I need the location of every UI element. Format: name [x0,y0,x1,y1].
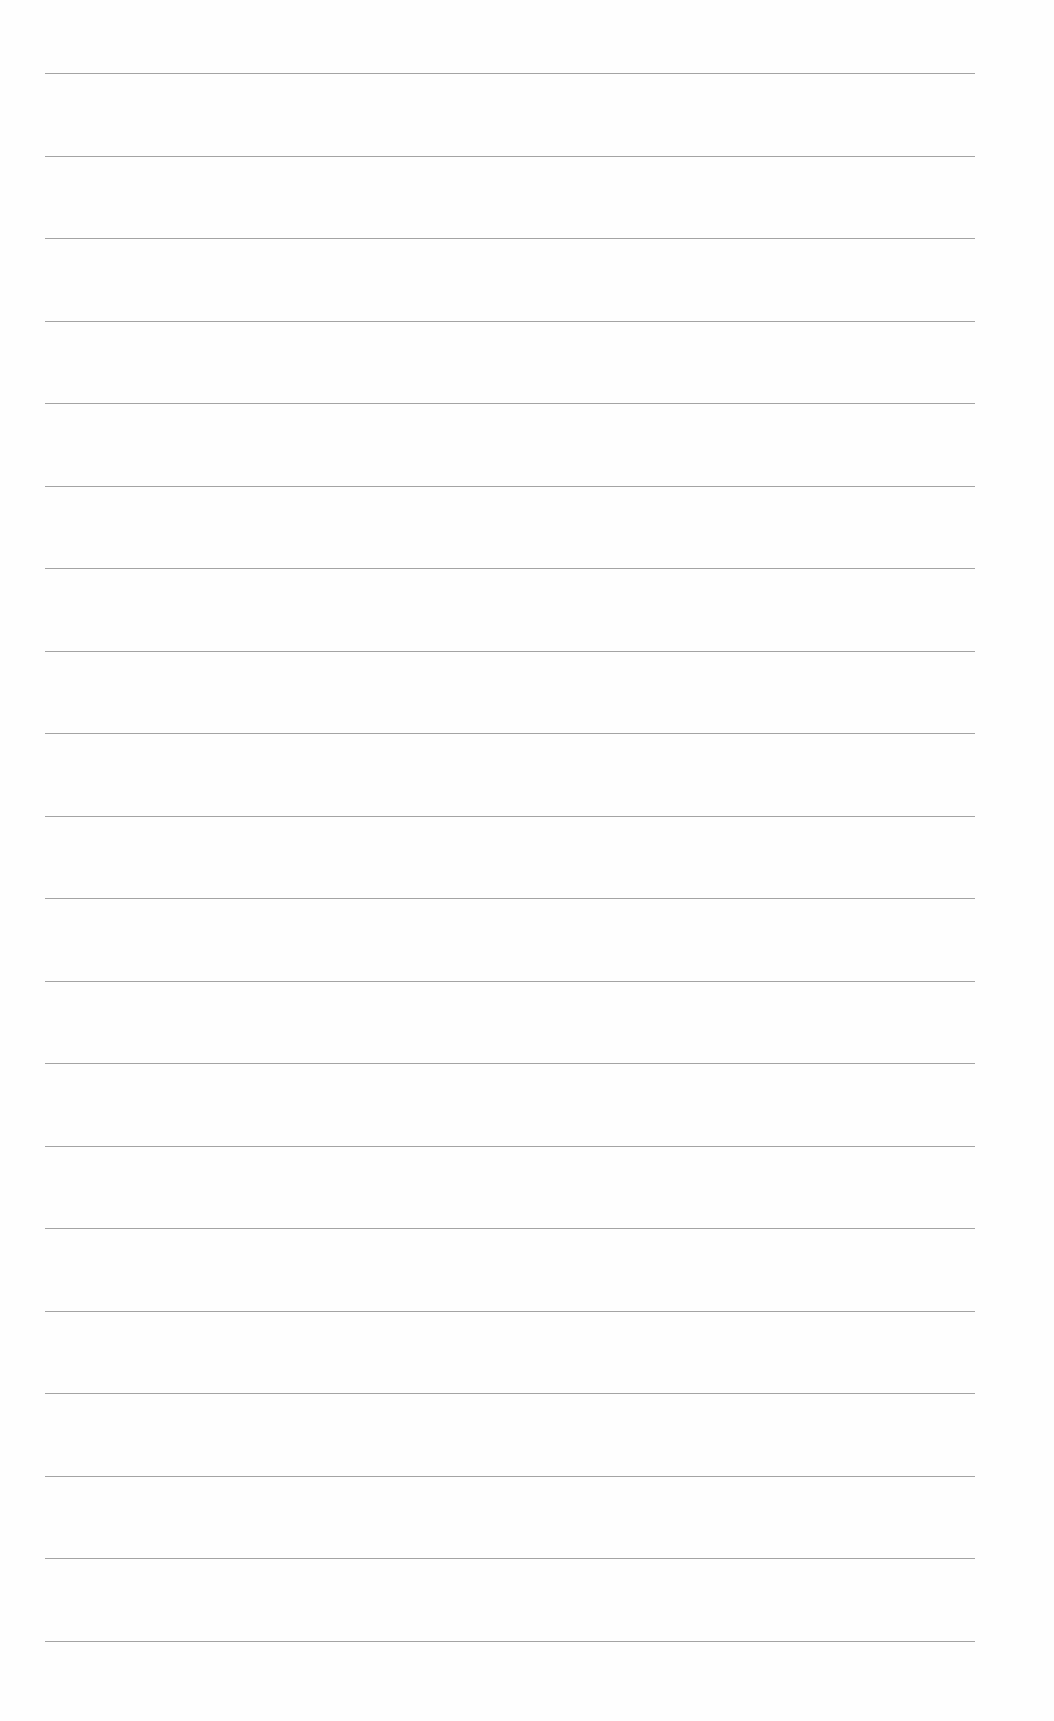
ruled-line [45,1063,975,1064]
ruled-line [45,238,975,239]
ruled-line [45,898,975,899]
ruled-line [45,981,975,982]
ruled-line [45,321,975,322]
ruled-line [45,568,975,569]
ruled-line [45,1311,975,1312]
ruled-line [45,816,975,817]
ruled-line [45,403,975,404]
ruled-line [45,1641,975,1642]
ruled-line [45,486,975,487]
ruled-line [45,73,975,74]
ruled-line [45,651,975,652]
ruled-line [45,156,975,157]
ruled-line [45,1393,975,1394]
ruled-line [45,733,975,734]
ruled-line [45,1476,975,1477]
ruled-line [45,1558,975,1559]
lined-paper-page [0,0,1054,1721]
ruled-line [45,1228,975,1229]
ruled-line [45,1146,975,1147]
